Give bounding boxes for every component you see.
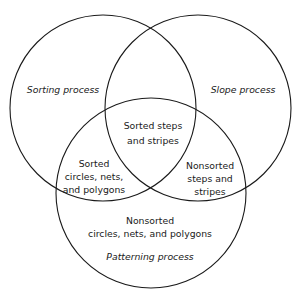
slope-patterning-line3: stripes <box>194 186 226 197</box>
sorting-patterning-line2: circles, nets, <box>65 171 124 182</box>
patterning-only-line1: Nonsorted <box>126 215 174 226</box>
sorting-patterning-line3: and polygons <box>63 184 126 195</box>
patterning-process-label: Patterning process <box>106 251 193 262</box>
patterning-only-line2: circles, nets, and polygons <box>88 228 212 239</box>
sorting-patterning-line1: Sorted <box>79 158 110 169</box>
venn-diagram: Sorting process Slope process Sorted ste… <box>0 0 304 303</box>
slope-patterning-line2: steps and <box>187 173 232 184</box>
slope-process-label: Slope process <box>211 84 276 95</box>
center-region-line1: Sorted steps <box>124 120 183 131</box>
sorting-process-label: Sorting process <box>27 84 99 95</box>
center-region-line2: and stripes <box>127 135 179 146</box>
slope-patterning-line1: Nonsorted <box>186 160 234 171</box>
